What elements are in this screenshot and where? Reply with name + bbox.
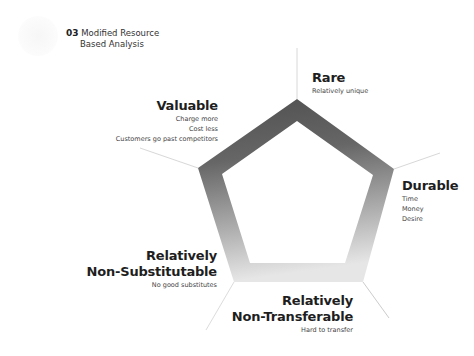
node-item: Money: [402, 204, 458, 214]
node-valuable: Valuable Charge more Cost less Customers…: [116, 98, 218, 144]
node-heading-line-2: Non-Substitutable: [87, 264, 217, 280]
connector-valuable: [140, 148, 198, 168]
node-non-substitutable: Relatively Non-Substitutable No good sub…: [87, 248, 217, 290]
node-item: Desire: [402, 214, 458, 224]
pentagon-ring: [198, 99, 394, 282]
connector-non-transferable: [363, 282, 389, 318]
node-heading: Rare: [312, 70, 368, 86]
node-rare: Rare Relatively unique: [312, 70, 368, 96]
node-item: Relatively unique: [312, 86, 368, 96]
connector-durable: [394, 153, 440, 169]
node-item: Hard to transfer: [232, 325, 353, 335]
node-heading: Valuable: [116, 98, 218, 114]
node-item: Customers go past competitors: [116, 134, 218, 144]
node-heading: Relatively: [232, 293, 353, 309]
node-durable: Durable Time Money Desire: [402, 178, 458, 224]
node-non-transferable: Relatively Non-Transferable Hard to tran…: [232, 293, 353, 335]
node-item: Time: [402, 194, 458, 204]
node-item: Cost less: [116, 124, 218, 134]
node-item: Charge more: [116, 114, 218, 124]
node-item: No good substitutes: [87, 280, 217, 290]
node-heading: Relatively: [87, 248, 217, 264]
node-heading: Durable: [402, 178, 458, 194]
node-heading-line-2: Non-Transferable: [232, 309, 353, 325]
